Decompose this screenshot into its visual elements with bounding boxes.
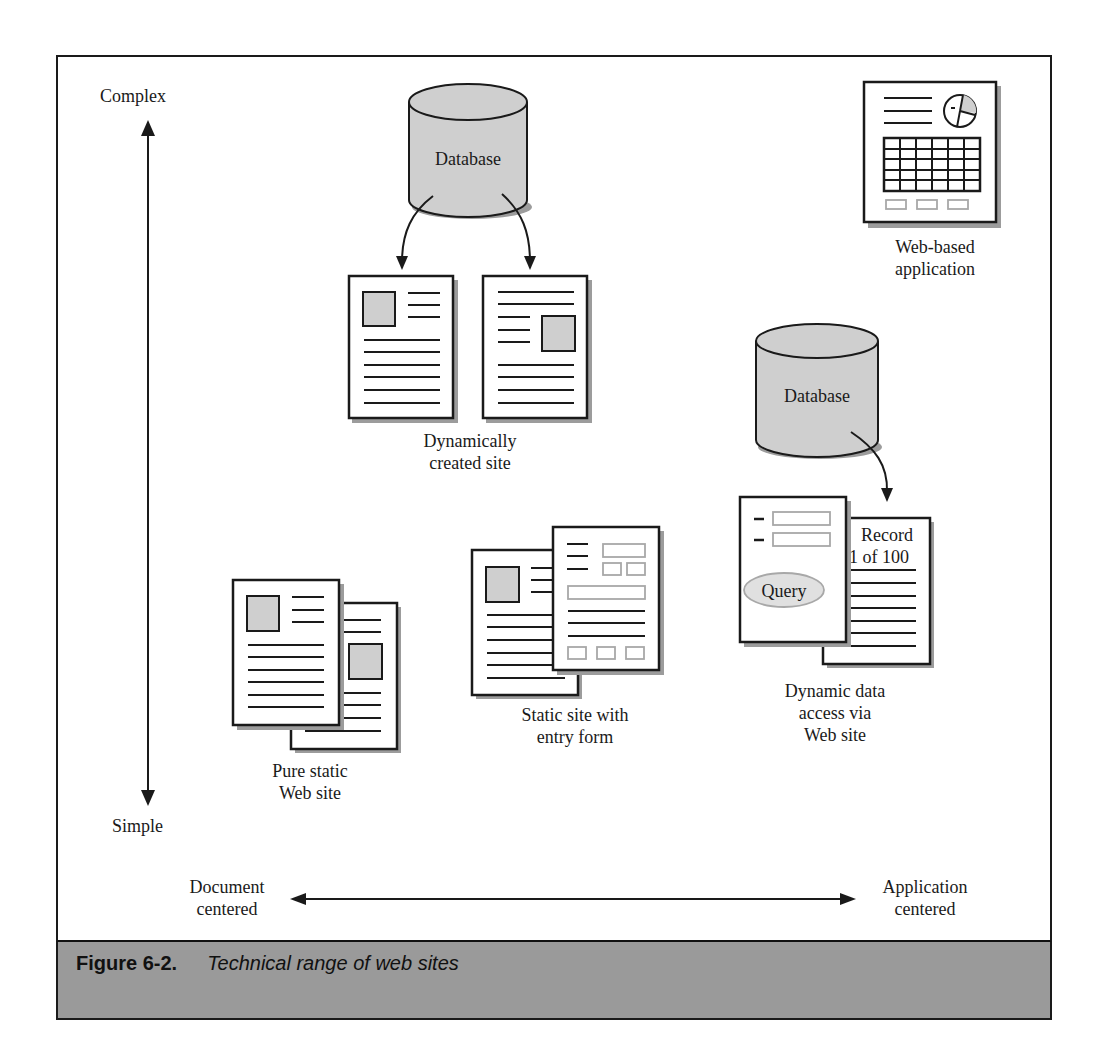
figure-number: Figure 6-2. bbox=[76, 952, 177, 974]
axis-label-document-line2: centered bbox=[172, 898, 282, 920]
label-staticform-line1: Static site with bbox=[500, 704, 650, 726]
label-dynamic-line2: created site bbox=[398, 452, 542, 474]
label-static-site-entry-form: Static site with entry form bbox=[500, 704, 650, 748]
label-pure-static-web-site: Pure static Web site bbox=[250, 760, 370, 804]
axis-label-application-line1: Application bbox=[870, 876, 980, 898]
database-right-icon: Database bbox=[756, 324, 882, 459]
label-dyndata-line3: Web site bbox=[765, 724, 905, 746]
figure-title: Technical range of web sites bbox=[207, 952, 459, 974]
database-top-label: Database bbox=[435, 149, 501, 169]
query-page-icon: Query bbox=[740, 497, 851, 647]
label-dynamic-data-access: Dynamic data access via Web site bbox=[765, 680, 905, 746]
data-grid-icon bbox=[884, 138, 980, 191]
label-dynamic-line1: Dynamically bbox=[398, 430, 542, 452]
label-web-based-application: Web-based application bbox=[870, 236, 1000, 280]
database-top-icon: Database bbox=[409, 84, 532, 219]
record-label: Record bbox=[861, 525, 913, 545]
document-application-axis-arrow bbox=[290, 893, 856, 905]
web-application-icon bbox=[864, 82, 1001, 228]
figure-caption: Figure 6-2.Technical range of web sites bbox=[76, 952, 459, 975]
pure-static-page-front-icon bbox=[233, 580, 344, 730]
label-purestatic-line2: Web site bbox=[250, 782, 370, 804]
axis-label-document-centered: Document centered bbox=[172, 876, 282, 920]
axis-label-simple: Simple bbox=[112, 815, 163, 837]
entry-form-page-icon bbox=[553, 527, 664, 675]
label-dyndata-line2: access via bbox=[765, 702, 905, 724]
axis-label-document-line1: Document bbox=[172, 876, 282, 898]
label-dyndata-line1: Dynamic data bbox=[765, 680, 905, 702]
label-purestatic-line1: Pure static bbox=[250, 760, 370, 782]
dynamic-page-left-icon bbox=[349, 276, 458, 423]
pie-chart-icon bbox=[944, 95, 976, 127]
complexity-axis-arrow bbox=[141, 120, 155, 806]
database-right-label: Database bbox=[784, 386, 850, 406]
label-dynamically-created-site: Dynamically created site bbox=[398, 430, 542, 474]
label-staticform-line2: entry form bbox=[500, 726, 650, 748]
dynamic-page-right-icon bbox=[483, 276, 592, 423]
axis-label-complex: Complex bbox=[100, 85, 166, 107]
axis-label-application-centered: Application centered bbox=[870, 876, 980, 920]
label-webapp-line1: Web-based bbox=[870, 236, 1000, 258]
axis-label-application-line2: centered bbox=[870, 898, 980, 920]
query-label: Query bbox=[762, 581, 807, 601]
figure-caption-band: Figure 6-2.Technical range of web sites bbox=[56, 942, 1052, 1020]
label-webapp-line2: application bbox=[870, 258, 1000, 280]
record-count: 1 of 100 bbox=[849, 547, 909, 567]
